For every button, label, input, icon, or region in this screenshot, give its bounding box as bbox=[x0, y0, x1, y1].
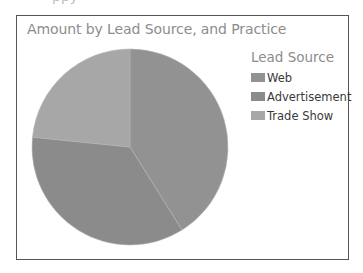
cutoff-heading-text: ppy bbox=[52, 0, 78, 4]
legend-item-advertisement[interactable]: Advertisement bbox=[251, 87, 351, 106]
legend-label: Trade Show bbox=[267, 109, 333, 123]
legend-label: Web bbox=[267, 71, 292, 85]
legend-title: Lead Source bbox=[251, 49, 351, 65]
legend-swatch-advertisement bbox=[251, 92, 265, 101]
legend-item-trade-show[interactable]: Trade Show bbox=[251, 106, 351, 125]
chart-frame: Amount by Lead Source, and Practice Lead… bbox=[16, 15, 349, 260]
legend-swatch-web bbox=[251, 73, 265, 82]
pie-slice-trade-show[interactable] bbox=[32, 49, 130, 147]
legend-item-web[interactable]: Web bbox=[251, 68, 351, 87]
legend-label: Advertisement bbox=[267, 90, 351, 104]
legend-swatch-trade-show bbox=[251, 111, 265, 120]
legend: Lead Source Web Advertisement Trade Show bbox=[251, 49, 351, 125]
